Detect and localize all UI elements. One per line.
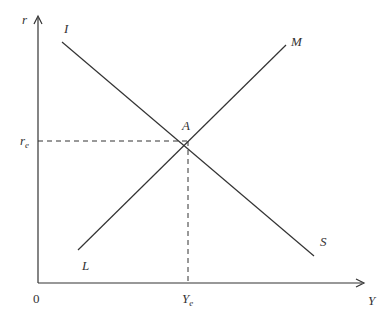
ye-label: Ye — [182, 291, 193, 308]
equilibrium-point-label: A — [181, 118, 190, 133]
lm-curve — [78, 45, 286, 250]
re-label: re — [20, 133, 29, 150]
is-start-label: I — [63, 21, 69, 36]
is-end-label: S — [320, 234, 327, 249]
origin-label: 0 — [33, 291, 40, 306]
lm-end-label: M — [290, 34, 303, 49]
y-axis-label: r — [22, 12, 28, 27]
axes — [34, 16, 364, 287]
lm-start-label: L — [81, 258, 89, 273]
is-lm-diagram: r Y 0 I S L M A re Ye — [0, 0, 390, 319]
x-axis-label: Y — [368, 293, 377, 308]
